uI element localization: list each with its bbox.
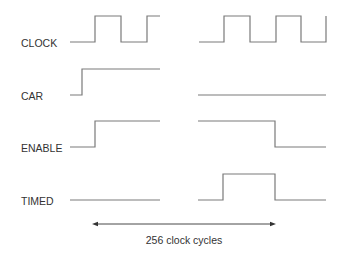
waveform-car (70, 69, 160, 95)
waveform-clock (199, 16, 326, 42)
waveform-clock (70, 16, 160, 42)
waveform-enable (198, 121, 326, 147)
span-arrow-label: 256 clock cycles (146, 234, 222, 246)
waveforms (70, 16, 326, 200)
signal-label-car: CAR (21, 90, 43, 102)
arrowhead-right-icon (270, 222, 276, 226)
span-arrow (92, 222, 276, 226)
signal-label-clock: CLOCK (21, 37, 57, 49)
waveform-timed (198, 174, 326, 200)
arrowhead-left-icon (92, 222, 98, 226)
signal-label-timed: TIMED (21, 195, 54, 207)
signal-label-enable: ENABLE (21, 142, 62, 154)
waveform-enable (70, 121, 160, 147)
